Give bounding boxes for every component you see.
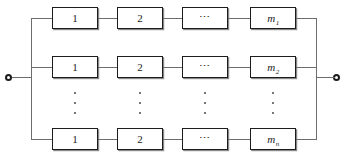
branch-n-block-1-label: 1 <box>72 134 78 145</box>
branch-2-block-1-label: 1 <box>72 62 78 73</box>
dot <box>204 92 206 94</box>
branch-1-block-m-base: m <box>267 12 275 24</box>
branch-1-input-wire <box>31 18 53 19</box>
branch-2-block-ellipsis-label: ⋯ <box>199 61 212 72</box>
column-1-vertical-ellipsis <box>70 92 80 114</box>
branch-n-block-ellipsis: ⋯ <box>182 128 228 150</box>
branch-1-link-2-3 <box>163 18 182 19</box>
output-lead-wire <box>316 77 335 78</box>
dot <box>139 102 141 104</box>
dot <box>204 112 206 114</box>
branch-1-link-1-2 <box>98 18 117 19</box>
dot <box>272 92 274 94</box>
branch-1-link-3-4 <box>228 18 250 19</box>
branch-1-block-m-label: m1 <box>267 13 278 24</box>
branch-2-link-1-2 <box>98 67 117 68</box>
right-bus-wire <box>316 18 317 139</box>
branch-2-input-wire <box>31 67 53 68</box>
branch-1-block-1-label: 1 <box>72 13 78 24</box>
branch-2-block-ellipsis: ⋯ <box>182 56 228 78</box>
branch-1-output-wire <box>296 18 317 19</box>
branch-2-block-2: 2 <box>117 56 163 78</box>
dot <box>74 102 76 104</box>
branch-1-block-2-label: 2 <box>137 13 143 24</box>
branch-1-block-ellipsis-label: ⋯ <box>199 12 212 23</box>
branch-n-link-3-4 <box>228 139 250 140</box>
branch-2-output-wire <box>296 67 317 68</box>
dot <box>272 102 274 104</box>
branch-n-output-wire <box>296 139 317 140</box>
left-bus-wire <box>31 18 32 139</box>
branch-2-block-m: m2 <box>250 56 296 78</box>
branch-n-block-ellipsis-label: ⋯ <box>199 133 212 144</box>
branch-n-block-2: 2 <box>117 128 163 150</box>
column-2-vertical-ellipsis <box>135 92 145 114</box>
branch-n-block-m-subscript: n <box>276 140 280 148</box>
branch-1-block-1: 1 <box>52 7 98 29</box>
branch-1-block-2: 2 <box>117 7 163 29</box>
branch-n-block-1: 1 <box>52 128 98 150</box>
branch-n-block-2-label: 2 <box>137 134 143 145</box>
dot <box>204 102 206 104</box>
dot <box>139 112 141 114</box>
reliability-block-diagram: 1 2 ⋯ m1 1 2 ⋯ m2 <box>0 0 347 164</box>
branch-1-block-m: m1 <box>250 7 296 29</box>
branch-n-link-2-3 <box>163 139 182 140</box>
branch-2-block-m-label: m2 <box>267 62 278 73</box>
column-3-vertical-ellipsis <box>200 92 210 114</box>
branch-2-block-m-subscript: 2 <box>276 68 280 76</box>
dot <box>272 112 274 114</box>
branch-2-block-2-label: 2 <box>137 62 143 73</box>
branch-n-link-1-2 <box>98 139 117 140</box>
branch-n-block-m-base: m <box>267 133 275 145</box>
column-4-vertical-ellipsis <box>268 92 278 114</box>
branch-n-input-wire <box>31 139 53 140</box>
input-terminal <box>5 74 12 81</box>
dot <box>74 112 76 114</box>
branch-1-block-ellipsis: ⋯ <box>182 7 228 29</box>
branch-2-link-3-4 <box>228 67 250 68</box>
branch-n-block-m-label: mn <box>267 134 278 145</box>
dot <box>74 92 76 94</box>
branch-1-block-m-subscript: 1 <box>276 19 280 27</box>
dot <box>139 92 141 94</box>
branch-2-block-1: 1 <box>52 56 98 78</box>
branch-n-block-m: mn <box>250 128 296 150</box>
branch-2-link-2-3 <box>163 67 182 68</box>
input-lead-wire <box>12 77 31 78</box>
branch-2-block-m-base: m <box>267 61 275 73</box>
